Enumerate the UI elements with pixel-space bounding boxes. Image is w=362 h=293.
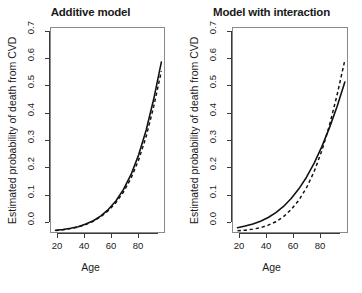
x-axis-line-right [239,233,340,234]
y-tick-left-0.5 [45,85,49,86]
x-tick-label-left-1: 40 [71,240,97,251]
curve-solid-right [238,82,345,228]
y-tick-label-right-6: 0.6 [208,48,226,61]
x-tick-right-40 [266,234,267,238]
curves-right [233,28,347,232]
curve-solid-left [56,62,162,230]
y-tick-label-left-7: 0.7 [26,21,44,34]
x-tick-left-80 [138,234,139,238]
x-tick-right-80 [320,234,321,238]
y-tick-label-left-3: 0.3 [26,130,44,143]
y-tick-right-0.1 [227,195,231,196]
y-tick-left-0.6 [45,58,49,59]
y-tick-right-0.2 [227,167,231,168]
panel-additive-model: Additive model Estimated probability of … [0,0,181,293]
y-tick-right-0.0 [227,222,231,223]
x-tick-left-40 [84,234,85,238]
y-tick-right-0.3 [227,140,231,141]
y-tick-label-left-5: 0.5 [26,75,44,88]
plot-area-left [50,27,165,233]
y-tick-right-0.5 [227,85,231,86]
curve-dashed-right [238,60,345,231]
plot-area-right [232,27,348,233]
y-tick-right-0.6 [227,58,231,59]
curves-left [51,28,164,232]
y-tick-label-left-1: 0.1 [26,185,44,198]
x-tick-label-left-0: 20 [44,240,70,251]
y-tick-label-right-0: 0.0 [208,212,226,225]
y-tick-label-left-6: 0.6 [26,48,44,61]
y-tick-label-right-4: 0.4 [208,103,226,116]
panel-title-right: Model with interaction [181,6,362,18]
y-tick-label-right-5: 0.5 [208,75,226,88]
x-tick-label-right-3: 80 [307,240,333,251]
y-tick-right-0.7 [227,31,231,32]
y-tick-left-0.4 [45,113,49,114]
y-tick-right-0.4 [227,113,231,114]
y-axis-title-right: Estimated probability of death from CVD [187,27,201,233]
x-axis-title-left: Age [0,261,181,273]
x-tick-right-20 [239,234,240,238]
y-tick-label-left-2: 0.2 [26,157,44,170]
x-tick-label-left-3: 80 [125,240,151,251]
panel-model-with-interaction: Model with interaction Estimated probabi… [181,0,362,293]
y-tick-left-0.0 [45,222,49,223]
x-tick-right-60 [293,234,294,238]
y-tick-label-right-1: 0.1 [208,185,226,198]
x-tick-left-20 [57,234,58,238]
y-tick-label-right-2: 0.2 [208,157,226,170]
curve-dashed-left [56,71,162,230]
x-axis-title-right: Age [181,261,362,273]
y-tick-left-0.2 [45,167,49,168]
y-tick-left-0.1 [45,195,49,196]
y-tick-label-right-7: 0.7 [208,21,226,34]
y-tick-left-0.7 [45,31,49,32]
x-tick-label-right-1: 40 [253,240,279,251]
y-tick-label-left-0: 0.0 [26,212,44,225]
x-tick-label-right-0: 20 [226,240,252,251]
x-tick-label-left-2: 60 [98,240,124,251]
y-tick-left-0.3 [45,140,49,141]
y-axis-title-left: Estimated probability of death from CVD [5,27,19,233]
x-tick-label-right-2: 60 [280,240,306,251]
y-tick-label-left-4: 0.4 [26,103,44,116]
y-tick-label-right-3: 0.3 [208,130,226,143]
x-tick-left-60 [111,234,112,238]
panel-title-left: Additive model [0,6,181,18]
x-axis-line-left [57,233,158,234]
figure-two-panel-plot: Additive model Estimated probability of … [0,0,362,293]
